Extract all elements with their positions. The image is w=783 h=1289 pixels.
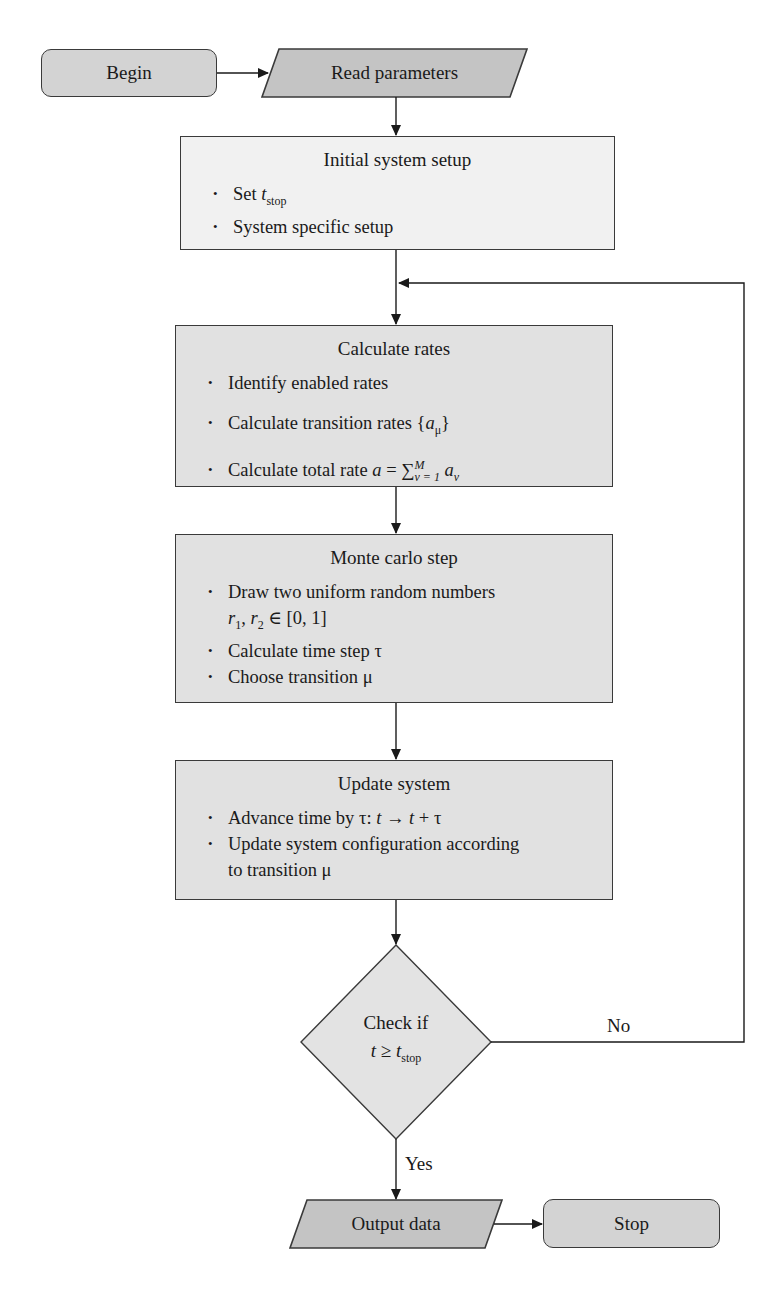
update-system-box: Update system Advance time by τ: t → t +… (175, 760, 613, 900)
begin-label: Begin (106, 62, 151, 84)
mc-bullet-draw: Draw two uniform random numbers (228, 579, 612, 605)
monte-carlo-title: Monte carlo step (176, 545, 612, 571)
initial-setup-box: Initial system setup Set tstop System sp… (180, 136, 615, 250)
yes-edge-label: Yes (405, 1153, 433, 1175)
setup-bullet-specific: System specific setup (233, 214, 614, 240)
calculate-rates-title: Calculate rates (176, 336, 612, 362)
monte-carlo-box: Monte carlo step Draw two uniform random… (175, 534, 613, 703)
mc-bullet-draw-cont: r1, r2 ∈ [0, 1] (228, 605, 612, 638)
stop-label: Stop (614, 1213, 649, 1235)
begin-node: Begin (41, 49, 217, 97)
update-bullet-config: Update system configuration according (228, 831, 612, 857)
rates-bullet-identify: Identify enabled rates (228, 370, 612, 396)
update-bullet-config-cont: to transition μ (228, 857, 612, 883)
read-parameters-node: Read parameters (262, 49, 527, 97)
decision-label-line2: t ≥ tstop (371, 1037, 422, 1072)
output-data-node: Output data (290, 1200, 502, 1248)
initial-setup-title: Initial system setup (181, 147, 614, 173)
rates-bullet-total: Calculate total rate a = ∑Mν = 1 aν (228, 457, 612, 490)
read-parameters-label: Read parameters (331, 62, 458, 84)
update-system-title: Update system (176, 771, 612, 797)
output-data-label: Output data (351, 1213, 440, 1235)
update-bullet-advance: Advance time by τ: t → t + τ (228, 805, 612, 831)
decision-label-line1: Check if (364, 1009, 429, 1037)
mc-bullet-choose: Choose transition μ (228, 664, 612, 690)
setup-bullet-tstop: Set tstop (233, 181, 614, 214)
rates-bullet-transition: Calculate transition rates {aμ} (228, 410, 612, 443)
stop-node: Stop (543, 1199, 720, 1248)
no-edge-label: No (607, 1015, 630, 1037)
mc-bullet-timestep: Calculate time step τ (228, 638, 612, 664)
decision-node: Check if t ≥ tstop (301, 1010, 491, 1070)
calculate-rates-box: Calculate rates Identify enabled rates C… (175, 325, 613, 487)
